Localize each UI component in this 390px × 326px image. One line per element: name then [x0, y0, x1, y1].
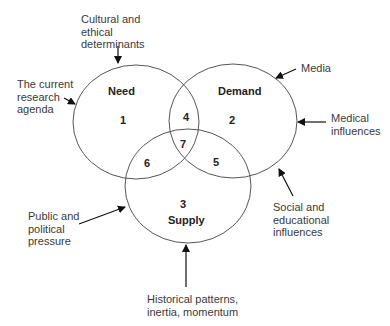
venn-diagram-canvas [0, 0, 390, 326]
region-5: 5 [213, 156, 219, 168]
region-6: 6 [144, 157, 150, 169]
media-label: Media [301, 62, 331, 75]
demand-title: Demand [218, 85, 261, 97]
supply-title: Supply [168, 214, 205, 226]
public-label: Public and political pressure [28, 210, 79, 248]
region-4: 4 [183, 111, 189, 123]
medical-label: Medical influences [331, 112, 381, 137]
media-arrow-icon [276, 69, 296, 78]
social-arrow-icon [279, 169, 293, 196]
research-label: The current research agenda [17, 78, 73, 116]
public-arrow-icon [79, 207, 125, 224]
need-title: Need [108, 85, 135, 97]
need-circle [73, 65, 199, 179]
region-7: 7 [180, 138, 186, 150]
historical-label: Historical patterns, inertia, momentum [147, 293, 238, 318]
social-label: Social and educational influences [273, 201, 329, 239]
region-1: 1 [120, 114, 126, 126]
cultural-label: Cultural and ethical determinants [81, 13, 145, 51]
region-2: 2 [229, 114, 235, 126]
region-3: 3 [180, 198, 186, 210]
